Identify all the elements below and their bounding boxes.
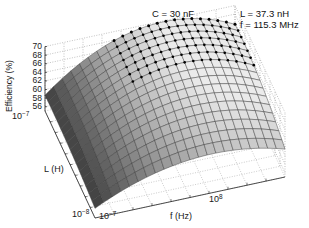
l-tick-top: 10−7 bbox=[12, 109, 29, 121]
f-axis-label: f (Hz) bbox=[170, 211, 192, 221]
f-tick-mid: 108 bbox=[209, 192, 223, 204]
f-tick-left: 10−7 bbox=[99, 209, 116, 221]
efficiency-surface bbox=[45, 19, 285, 209]
z-axis-label: Efficiency (%) bbox=[4, 60, 14, 112]
annotation-f: f = 115.3 MHz bbox=[240, 19, 299, 30]
annotation-l: L = 37.3 nH bbox=[240, 8, 289, 19]
chart-title: C = 30 nF bbox=[152, 8, 194, 19]
l-axis-label: L (H) bbox=[44, 164, 64, 174]
l-tick-bottom: 10−8 bbox=[72, 207, 89, 219]
surface-plot bbox=[0, 0, 309, 228]
